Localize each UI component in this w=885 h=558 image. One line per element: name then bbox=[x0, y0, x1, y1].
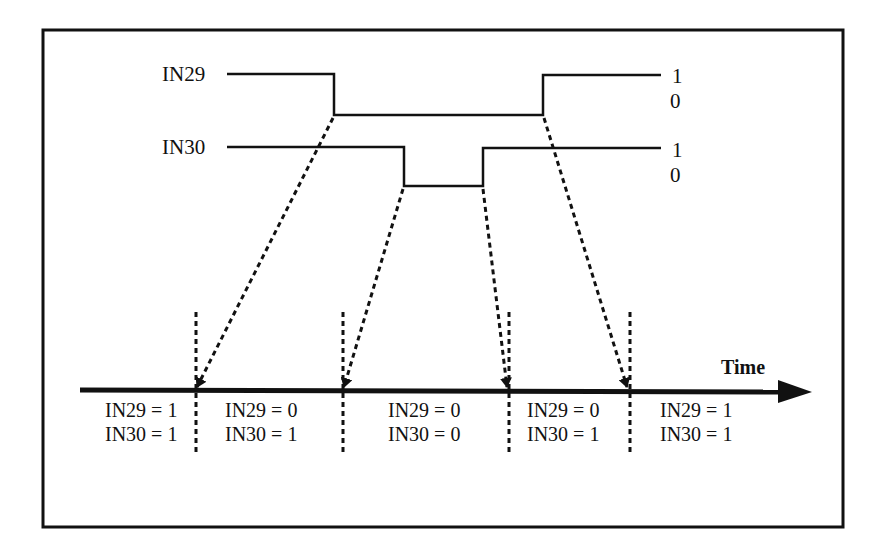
state-1-in30: IN30 = 1 bbox=[105, 422, 177, 446]
in29-waveform bbox=[227, 74, 661, 115]
state-4: IN29 = 0 IN30 = 1 bbox=[527, 398, 599, 446]
in29-low-label: 0 bbox=[670, 91, 681, 112]
state-3-in29: IN29 = 0 bbox=[388, 398, 460, 422]
in29-high-label: 1 bbox=[672, 66, 683, 87]
signal-label-in29: IN29 bbox=[162, 64, 205, 85]
in30-waveform bbox=[227, 147, 661, 186]
state-4-in29: IN29 = 0 bbox=[527, 398, 599, 422]
signal-label-in30: IN30 bbox=[162, 137, 205, 158]
timing-diagram-graphic bbox=[0, 0, 885, 558]
state-2-in29: IN29 = 0 bbox=[225, 398, 297, 422]
in30-low-label: 0 bbox=[670, 165, 681, 186]
state-5-in30: IN30 = 1 bbox=[660, 422, 732, 446]
state-3-in30: IN30 = 0 bbox=[388, 422, 460, 446]
transition-arrow-in30-fall bbox=[344, 189, 403, 387]
state-1: IN29 = 1 IN30 = 1 bbox=[105, 398, 177, 446]
state-2-in30: IN30 = 1 bbox=[225, 422, 297, 446]
transition-arrow-in29-rise bbox=[544, 118, 627, 387]
diagram-frame bbox=[43, 30, 843, 527]
transition-arrow-in29-fall bbox=[197, 118, 333, 387]
state-1-in29: IN29 = 1 bbox=[105, 398, 177, 422]
time-axis bbox=[80, 390, 790, 392]
time-axis-arrowhead bbox=[778, 380, 812, 403]
state-4-in30: IN30 = 1 bbox=[527, 422, 599, 446]
time-axis-label: Time bbox=[721, 356, 765, 379]
transition-arrow-in30-rise bbox=[483, 189, 507, 387]
state-3: IN29 = 0 IN30 = 0 bbox=[388, 398, 460, 446]
state-5-in29: IN29 = 1 bbox=[660, 398, 732, 422]
in30-high-label: 1 bbox=[672, 140, 683, 161]
state-2: IN29 = 0 IN30 = 1 bbox=[225, 398, 297, 446]
state-5: IN29 = 1 IN30 = 1 bbox=[660, 398, 732, 446]
